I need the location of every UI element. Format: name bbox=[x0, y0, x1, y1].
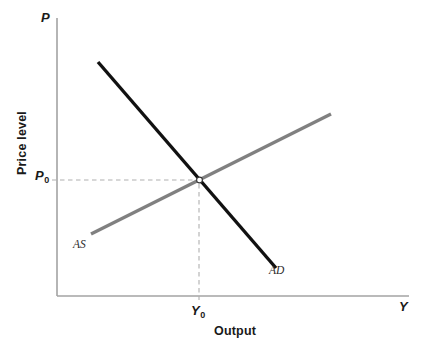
y-axis-name-label: P bbox=[41, 11, 50, 24]
aggregate-supply-curve-label: AS bbox=[73, 239, 86, 251]
p0-subscript: 0 bbox=[44, 175, 49, 185]
equilibrium-point-marker bbox=[197, 177, 203, 183]
aggregate-demand-curve bbox=[98, 62, 276, 268]
y-axis-title-label: Price level bbox=[16, 111, 29, 175]
aggregate-supply-curve bbox=[91, 114, 331, 234]
equilibrium-output-tick-label: Y0 bbox=[191, 304, 205, 317]
p0-base: P bbox=[35, 168, 44, 183]
equilibrium-price-tick-label: P0 bbox=[35, 169, 49, 182]
x-axis-name-label: Y bbox=[399, 300, 408, 313]
plot-area bbox=[0, 0, 424, 346]
y0-subscript: 0 bbox=[200, 310, 205, 320]
ad-as-diagram: P Y Price level Output P0 Y0 AS AD bbox=[0, 0, 424, 346]
x-axis-title-label: Output bbox=[214, 325, 256, 338]
aggregate-demand-curve-label: AD bbox=[269, 265, 284, 277]
y0-base: Y bbox=[191, 303, 200, 318]
